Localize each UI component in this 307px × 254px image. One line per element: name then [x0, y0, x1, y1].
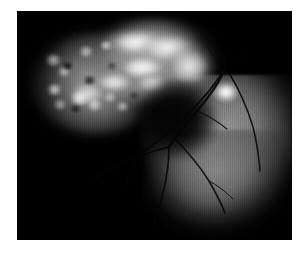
angiogram-image-plate — [17, 11, 292, 240]
figure-root — [0, 0, 307, 254]
retinal-vessel-tree — [17, 11, 292, 240]
hyperfluorescent-lesion-region — [39, 22, 248, 155]
fundus-field-lower-region — [144, 130, 287, 240]
fundus-field-region — [138, 75, 292, 240]
figure-caption — [17, 242, 292, 252]
optic-disc-region — [204, 75, 248, 112]
film-grain-artifact — [17, 11, 292, 240]
scanline-artifact — [17, 11, 292, 240]
plate-vignette — [17, 11, 292, 240]
dark-notch-region — [133, 80, 227, 172]
